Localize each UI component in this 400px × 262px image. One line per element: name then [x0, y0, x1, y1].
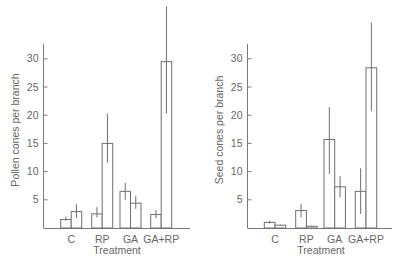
x-axis-title: Treatment	[297, 244, 345, 256]
bars	[61, 6, 172, 228]
y-tick-label: 5	[33, 193, 39, 205]
category-label: GA+RP	[143, 233, 179, 245]
category-label: GA+RP	[348, 233, 384, 245]
seed-chart-panel: 51015202530 CRPGAGA+RP Treatment Seed co…	[213, 23, 392, 256]
y-tick-label: 25	[27, 81, 39, 93]
x-axis-title: Treatment	[93, 244, 141, 256]
pollen-chart-panel: 51015202530 CRPGAGA+RP Treatment Pollen …	[9, 6, 190, 256]
y-tick-label: 25	[231, 81, 243, 93]
y-tick-label: 20	[27, 109, 39, 121]
bar	[61, 220, 71, 228]
y-tick-label: 30	[27, 52, 39, 64]
y-tick-label: 15	[27, 137, 39, 149]
y-tick-label: 10	[231, 165, 243, 177]
category-label: C	[271, 233, 279, 245]
y-tick-label: 5	[237, 193, 243, 205]
y-ticks: 51015202530	[231, 52, 252, 205]
y-tick-label: 10	[27, 165, 39, 177]
category-label: C	[67, 233, 75, 245]
y-ticks: 51015202530	[27, 52, 48, 205]
y-tick-label: 15	[231, 137, 243, 149]
bars	[264, 23, 376, 228]
y-tick-label: 30	[231, 52, 243, 64]
y-tick-label: 20	[231, 109, 243, 121]
y-axis-title: Pollen cones per branch	[9, 73, 21, 186]
chart-canvas: 51015202530 CRPGAGA+RP Treatment Pollen …	[0, 0, 400, 262]
y-axis-title: Seed cones per branch	[213, 76, 225, 185]
